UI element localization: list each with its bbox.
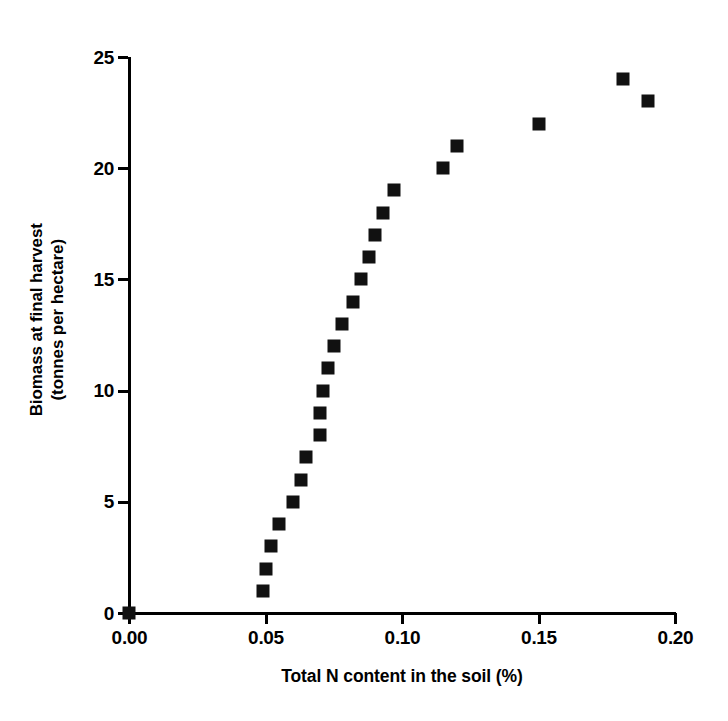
y-axis-line <box>128 57 131 614</box>
data-point <box>314 429 327 442</box>
x-tick-0.05: 0.05 <box>265 613 268 624</box>
data-point <box>273 518 286 531</box>
y-axis-title: Biomass at final harvest (tonnes per hec… <box>0 0 96 640</box>
x-tick-label-0.20: 0.20 <box>658 627 694 649</box>
y-tick-5: 5 <box>118 501 128 504</box>
data-point <box>314 406 327 419</box>
data-point <box>532 117 545 130</box>
data-point <box>264 540 277 553</box>
data-point <box>123 607 136 620</box>
x-axis-title: Total N content in the soil (%) <box>129 666 675 687</box>
x-tick-label-0.00: 0.00 <box>112 627 148 649</box>
y-tick-10: 10 <box>118 390 128 393</box>
data-point <box>335 317 348 330</box>
y-tick-label-10: 10 <box>93 380 114 402</box>
data-point <box>363 251 376 264</box>
y-tick-25: 25 <box>118 56 128 59</box>
y-tick-label-0: 0 <box>104 603 114 625</box>
data-point <box>300 451 313 464</box>
data-point <box>346 295 359 308</box>
data-point <box>641 95 654 108</box>
data-point <box>327 340 340 353</box>
y-axis-title-line2: (tonnes per hectare) <box>48 223 69 416</box>
x-tick-0.15: 0.15 <box>538 613 541 624</box>
data-point <box>256 584 269 597</box>
y-tick-20: 20 <box>118 167 128 170</box>
x-tick-label-0.05: 0.05 <box>248 627 284 649</box>
y-tick-label-25: 25 <box>93 47 114 69</box>
plot-area: 0510152025 0.000.050.100.150.20 <box>129 57 675 613</box>
data-point <box>387 184 400 197</box>
data-point <box>294 473 307 486</box>
y-axis-title-line1: Biomass at final harvest <box>27 223 48 416</box>
data-point <box>617 73 630 86</box>
scatter-plot-figure: Biomass at final harvest (tonnes per hec… <box>0 0 728 721</box>
data-point <box>368 228 381 241</box>
data-point <box>355 273 368 286</box>
y-tick-label-20: 20 <box>93 158 114 180</box>
data-point <box>316 384 329 397</box>
data-point <box>376 206 389 219</box>
data-point <box>286 495 299 508</box>
data-point <box>322 362 335 375</box>
data-point <box>259 562 272 575</box>
y-tick-15: 15 <box>118 278 128 281</box>
x-tick-label-0.10: 0.10 <box>385 627 421 649</box>
y-tick-label-5: 5 <box>104 491 114 513</box>
x-tick-0.10: 0.10 <box>401 613 404 624</box>
y-tick-label-15: 15 <box>93 269 114 291</box>
x-tick-0.20: 0.20 <box>674 613 677 624</box>
data-point <box>450 139 463 152</box>
x-tick-label-0.15: 0.15 <box>521 627 557 649</box>
data-point <box>436 162 449 175</box>
